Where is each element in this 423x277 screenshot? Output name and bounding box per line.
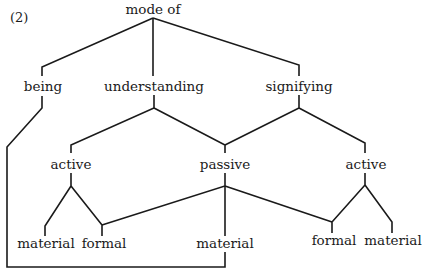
edge-understanding-passive	[154, 108, 225, 153]
edge-signifying-passive	[225, 95, 299, 145]
node-mode-of: mode of	[126, 1, 182, 17]
node-material-left: material	[17, 235, 74, 251]
edge-signifying-active-right	[299, 108, 365, 153]
node-active-right: active	[346, 156, 387, 172]
edge-active-left-formal	[71, 186, 102, 236]
figure-label: (2)	[10, 10, 28, 25]
node-material-mid: material	[196, 235, 253, 251]
edge-active-right-material	[365, 185, 392, 233]
node-passive: passive	[200, 156, 250, 172]
tree-diagram: (2) mode of being understanding signifyi…	[0, 0, 423, 277]
edge-understanding-active-left	[71, 95, 154, 153]
node-formal-left: formal	[82, 235, 127, 251]
edge-root-being	[42, 18, 153, 76]
edge-passive-formal-left	[102, 173, 225, 225]
node-signifying: signifying	[265, 78, 333, 94]
edge-active-right-formal	[332, 173, 365, 233]
node-formal-right: formal	[312, 232, 357, 248]
edge-passive-formal-right	[225, 186, 332, 222]
node-material-right: material	[364, 232, 421, 248]
edge-root-signifying	[153, 18, 299, 76]
node-active-left: active	[51, 156, 92, 172]
edge-active-left-material	[45, 173, 71, 236]
node-being: being	[24, 78, 63, 94]
node-understanding: understanding	[104, 78, 204, 94]
